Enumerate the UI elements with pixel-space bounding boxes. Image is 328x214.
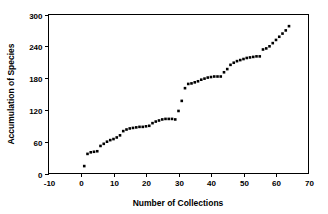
data-point	[200, 78, 203, 81]
x-axis-tick-labels: -10010203040506070	[44, 179, 315, 188]
data-point	[265, 47, 268, 50]
y-tick-label: 240	[29, 43, 43, 52]
data-point	[245, 57, 248, 60]
data-point	[96, 150, 99, 153]
data-point	[190, 82, 193, 85]
data-point	[102, 143, 105, 146]
x-tick-label: 20	[142, 179, 151, 188]
data-point	[239, 59, 242, 62]
data-point	[262, 48, 265, 51]
data-point	[216, 75, 219, 78]
y-axis-title: Accumulation of Species	[6, 43, 16, 144]
data-point	[119, 134, 122, 137]
data-point	[275, 39, 278, 42]
y-axis-tick-labels: 060120180240300	[29, 12, 43, 180]
data-point	[242, 58, 245, 61]
x-tick-label: 30	[175, 179, 184, 188]
y-tick-label: 60	[34, 139, 43, 148]
data-point	[174, 118, 177, 121]
data-point	[213, 75, 216, 78]
data-point	[271, 42, 274, 45]
y-axis-ticks	[45, 16, 49, 175]
data-point	[206, 76, 209, 79]
x-tick-label: 0	[79, 179, 84, 188]
data-point	[138, 126, 141, 129]
data-point	[268, 45, 271, 48]
x-tick-label: 70	[305, 179, 314, 188]
data-points-layer	[83, 25, 290, 168]
chart-figure: 060120180240300 -10010203040506070 Numbe…	[0, 0, 328, 214]
data-point	[167, 118, 170, 121]
data-point	[223, 71, 226, 74]
data-point	[148, 125, 151, 128]
data-point	[125, 128, 128, 131]
data-point	[278, 35, 281, 38]
data-point	[229, 64, 232, 67]
scatter-plot: 060120180240300 -10010203040506070 Numbe…	[0, 0, 328, 214]
data-point	[132, 127, 135, 130]
x-tick-label: 40	[207, 179, 216, 188]
data-point	[284, 29, 287, 32]
plot-frame	[49, 15, 309, 174]
data-point	[258, 55, 261, 58]
x-axis-title: Number of Collections	[133, 198, 224, 208]
data-point	[161, 118, 164, 121]
data-point	[219, 75, 222, 78]
data-point	[164, 118, 167, 121]
data-point	[255, 55, 258, 58]
data-point	[226, 68, 229, 71]
data-point	[115, 136, 118, 139]
data-point	[93, 150, 96, 153]
data-point	[86, 153, 89, 156]
data-point	[197, 80, 200, 83]
plot-border	[49, 15, 309, 174]
data-point	[193, 81, 196, 84]
y-tick-label: 300	[29, 12, 43, 21]
x-tick-label: -10	[44, 179, 56, 188]
data-point	[158, 119, 161, 122]
data-point	[109, 139, 112, 142]
data-point	[236, 60, 239, 63]
data-point	[249, 56, 252, 59]
x-tick-label: 60	[272, 179, 281, 188]
data-point	[252, 56, 255, 59]
data-point	[177, 110, 180, 113]
data-point	[171, 118, 174, 121]
data-point	[141, 126, 144, 129]
x-tick-label: 50	[240, 179, 249, 188]
data-point	[288, 25, 291, 28]
data-point	[151, 122, 154, 125]
data-point	[281, 32, 284, 35]
data-point	[99, 145, 102, 148]
y-tick-label: 120	[29, 107, 43, 116]
data-point	[128, 127, 131, 130]
data-point	[89, 151, 92, 154]
data-point	[112, 138, 115, 141]
data-point	[154, 120, 157, 123]
y-tick-label: 0	[38, 171, 43, 180]
data-point	[232, 61, 235, 64]
data-point	[122, 130, 125, 133]
data-point	[180, 100, 183, 103]
data-point	[83, 165, 86, 168]
data-point	[210, 76, 213, 79]
x-tick-label: 10	[110, 179, 119, 188]
data-point	[145, 125, 148, 128]
y-tick-label: 180	[29, 75, 43, 84]
data-point	[135, 126, 138, 129]
data-point	[184, 87, 187, 90]
data-point	[203, 77, 206, 80]
x-axis-ticks	[82, 174, 277, 178]
data-point	[106, 140, 109, 143]
data-point	[187, 83, 190, 86]
